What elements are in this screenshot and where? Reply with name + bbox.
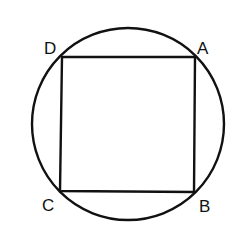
vertex-label-a: A [197,39,209,58]
vertex-label-d: D [44,39,56,58]
vertex-label-b: B [199,197,210,216]
inscribed-square-diagram: D A C B [0,0,243,227]
square-abcd [60,57,195,192]
vertex-label-c: C [42,196,54,215]
